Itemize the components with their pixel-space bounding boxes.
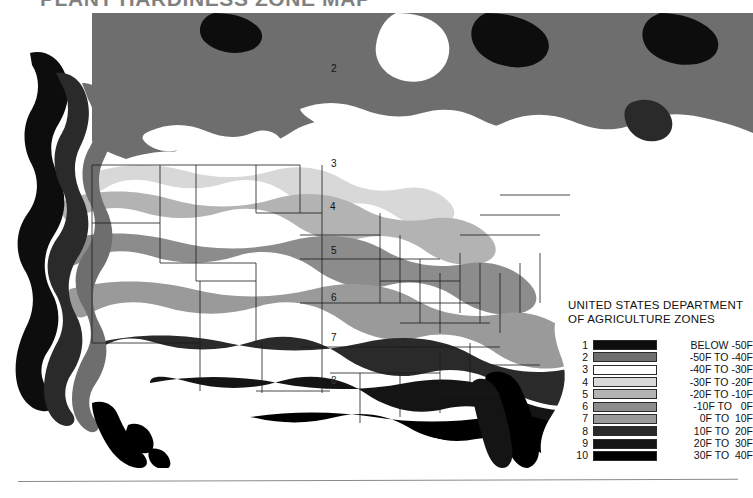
legend-color-swatch	[593, 377, 657, 387]
legend-row[interactable]: 8 10F TO 20F	[568, 425, 753, 437]
legend-zone-number: 4	[568, 377, 593, 388]
page-title-clip: PLANT HARDINESS ZONE MAP	[0, 0, 753, 13]
legend-heading-line-2: OF AGRICULTURE ZONES	[568, 312, 753, 326]
legend-range-label: -30F TO -20F	[657, 377, 753, 388]
footer-divider	[18, 479, 738, 482]
legend-row[interactable]: 5 -20F TO -10F	[568, 388, 753, 400]
legend-zone-number: 5	[568, 389, 593, 400]
map-legend: UNITED STATES DEPARTMENT OF AGRICULTURE …	[568, 298, 753, 462]
legend-zone-number: 1	[568, 340, 593, 351]
legend-zone-number: 6	[568, 401, 593, 412]
hardiness-zone-map-page: PLANT HARDINESS ZONE MAP	[0, 0, 753, 498]
legend-range-label: 30F TO 40F	[657, 450, 753, 461]
legend-color-swatch	[593, 439, 657, 449]
legend-color-swatch	[593, 451, 657, 461]
legend-range-label: BELOW -50F	[657, 340, 753, 351]
legend-heading-line-1: UNITED STATES DEPARTMENT	[568, 298, 753, 312]
legend-row[interactable]: 2 -50F TO -40F	[568, 351, 753, 363]
legend-color-swatch	[593, 414, 657, 424]
legend-range-label: -40F TO -30F	[657, 364, 753, 375]
zone-label-2: 2	[331, 63, 337, 74]
legend-row[interactable]: 10 30F TO 40F	[568, 450, 753, 462]
legend-range-label: -10F TO 0F	[657, 401, 753, 412]
legend-range-label: 10F TO 20F	[657, 426, 753, 437]
legend-zone-number: 8	[568, 426, 593, 437]
legend-row[interactable]: 9 20F TO 30F	[568, 437, 753, 449]
zone-label-3: 3	[331, 158, 337, 169]
legend-color-swatch	[593, 389, 657, 399]
legend-zone-number: 10	[568, 450, 593, 461]
zone-label-6: 6	[331, 292, 337, 303]
legend-zone-number: 3	[568, 364, 593, 375]
legend-zone-number: 9	[568, 438, 593, 449]
legend-row[interactable]: 6 -10F TO 0F	[568, 400, 753, 412]
page-title: PLANT HARDINESS ZONE MAP	[40, 0, 371, 11]
zone-label-8: 8	[331, 375, 337, 386]
legend-color-swatch	[593, 402, 657, 412]
zone-label-4: 4	[330, 201, 336, 212]
legend-row[interactable]: 1 BELOW -50F	[568, 339, 753, 351]
legend-color-swatch	[593, 426, 657, 436]
zone-label-7: 7	[331, 332, 337, 343]
legend-zone-number: 7	[568, 413, 593, 424]
legend-range-label: -20F TO -10F	[657, 389, 753, 400]
legend-rows: 1 BELOW -50F 2 -50F TO -40F 3 -40F TO -3…	[568, 339, 753, 462]
legend-zone-number: 2	[568, 352, 593, 363]
legend-row[interactable]: 3 -40F TO -30F	[568, 364, 753, 376]
zone-label-5: 5	[331, 245, 337, 256]
legend-color-swatch	[593, 365, 657, 375]
legend-range-label: -50F TO -40F	[657, 352, 753, 363]
legend-color-swatch	[593, 340, 657, 350]
legend-range-label: 0F TO 10F	[657, 413, 753, 424]
legend-color-swatch	[593, 352, 657, 362]
legend-range-label: 20F TO 30F	[657, 438, 753, 449]
legend-row[interactable]: 4 -30F TO -20F	[568, 376, 753, 388]
legend-row[interactable]: 7 0F TO 10F	[568, 413, 753, 425]
